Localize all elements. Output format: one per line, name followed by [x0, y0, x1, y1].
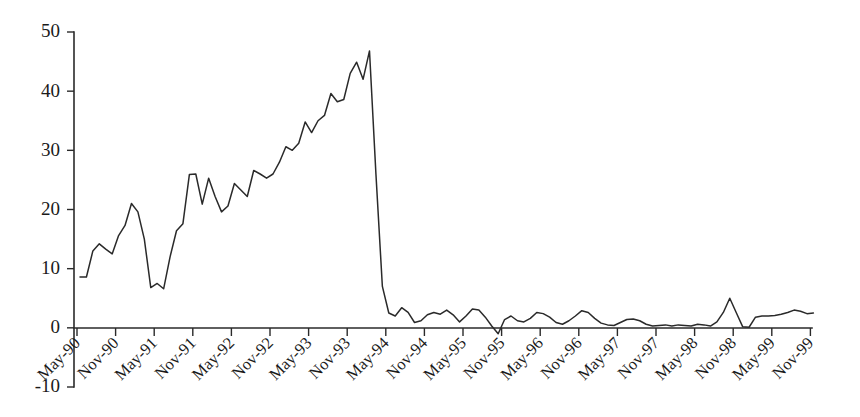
y-tick-label: 30	[41, 139, 60, 160]
x-tick-label: May-99	[728, 333, 778, 383]
chart-canvas: 50403020100-10 May-90Nov-90May-91Nov-91M…	[0, 0, 860, 417]
x-tick-label: Nov-99	[768, 333, 817, 382]
x-tick-label: May-94	[342, 333, 392, 383]
x-tick-label: May-97	[574, 333, 624, 383]
line-chart: 50403020100-10 May-90Nov-90May-91Nov-91M…	[0, 0, 860, 417]
series-line-path	[80, 51, 813, 334]
y-tick-label: 40	[41, 80, 60, 101]
x-tick-label: May-92	[188, 333, 238, 383]
y-tick-label: 0	[51, 316, 61, 337]
y-tick-label: 10	[41, 257, 60, 278]
data-series-group	[80, 51, 813, 334]
x-tick-label: May-93	[265, 333, 315, 383]
x-tick-label: May-91	[111, 333, 161, 383]
y-tick-label: 50	[41, 20, 60, 41]
x-tick-labels: May-90Nov-90May-91Nov-91May-92Nov-92May-…	[33, 333, 817, 383]
x-tick-label: May-96	[497, 333, 547, 383]
y-tick-label: 20	[41, 198, 60, 219]
x-tick-label: May-95	[419, 333, 469, 383]
y-tick-labels: 50403020100-10	[35, 20, 60, 396]
x-axis-group: May-90Nov-90May-91Nov-91May-92Nov-92May-…	[33, 328, 817, 384]
x-tick-label: May-98	[651, 333, 701, 383]
